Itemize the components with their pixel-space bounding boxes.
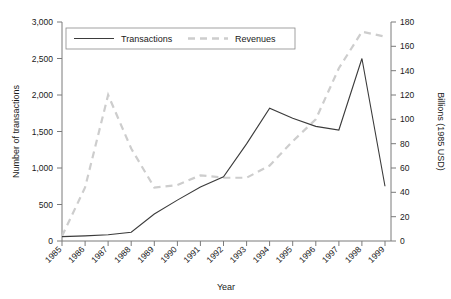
right-tick-label: 160 xyxy=(400,41,414,51)
left-tick-label: 2,500 xyxy=(32,54,54,64)
legend-label-transactions: Transactions xyxy=(121,34,173,44)
x-tick-label: 1993 xyxy=(228,244,249,265)
left-tick-label: 3,000 xyxy=(32,17,54,27)
x-tick-label: 1991 xyxy=(181,244,202,265)
x-tick-label: 1988 xyxy=(112,244,133,265)
right-tick-label: 140 xyxy=(400,66,414,76)
right-axis: 0 20 40 60 80 100 120 140 160 180 Billio… xyxy=(391,17,446,246)
x-tick-label: 1987 xyxy=(89,244,110,265)
left-tick-label: 1,000 xyxy=(32,163,54,173)
x-tick-label: 1996 xyxy=(297,244,318,265)
legend-label-revenues: Revenues xyxy=(235,34,276,44)
right-tick-label: 180 xyxy=(400,17,414,27)
series-line-revenues xyxy=(62,32,385,236)
right-tick-label: 100 xyxy=(400,114,414,124)
x-tick-label: 1990 xyxy=(158,244,179,265)
x-tick-label: 1992 xyxy=(204,244,225,265)
right-axis-title: Billions (1985 USD) xyxy=(436,92,446,171)
x-tick-label: 1997 xyxy=(320,244,341,265)
left-tick-label: 0 xyxy=(48,236,53,246)
left-axis-ticks xyxy=(57,22,62,241)
x-tick-label: 1995 xyxy=(274,244,295,265)
left-axis: 0 500 1,000 1,500 2,000 2,500 3,000 Numb… xyxy=(11,17,62,246)
left-axis-title: Number of transactions xyxy=(11,84,21,178)
right-tick-label: 80 xyxy=(400,139,410,149)
x-axis: 1985 1986 1987 1988 1989 1990 1991 1992 … xyxy=(43,241,391,292)
left-tick-label: 500 xyxy=(39,200,53,210)
x-tick-label: 1999 xyxy=(366,244,387,265)
series-line-transactions xyxy=(62,59,385,237)
right-axis-ticks xyxy=(391,22,396,241)
x-axis-title: Year xyxy=(217,282,235,292)
chart-container: 0 500 1,000 1,500 2,000 2,500 3,000 Numb… xyxy=(0,0,451,299)
right-tick-label: 60 xyxy=(400,163,410,173)
right-tick-label: 120 xyxy=(400,90,414,100)
x-tick-label: 1994 xyxy=(251,244,272,265)
right-tick-label: 40 xyxy=(400,187,410,197)
x-tick-label: 1989 xyxy=(135,244,156,265)
right-tick-label: 0 xyxy=(400,236,405,246)
left-tick-label: 1,500 xyxy=(32,127,54,137)
left-tick-label: 2,000 xyxy=(32,90,54,100)
x-tick-label: 1986 xyxy=(66,244,87,265)
line-chart: 0 500 1,000 1,500 2,000 2,500 3,000 Numb… xyxy=(0,0,451,299)
x-tick-label: 1998 xyxy=(343,244,364,265)
right-tick-label: 20 xyxy=(400,212,410,222)
x-axis-ticks xyxy=(62,241,385,246)
legend: Transactions Revenues xyxy=(66,28,295,49)
x-tick-label: 1985 xyxy=(43,244,64,265)
